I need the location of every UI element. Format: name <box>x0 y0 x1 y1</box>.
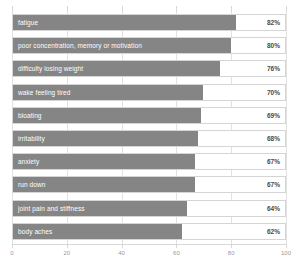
bar-row: anxiety67% <box>12 153 286 170</box>
x-axis-tick-label: 20 <box>63 250 70 256</box>
bar-row: difficulty losing weight76% <box>12 60 286 77</box>
horizontal-bar-chart: fatigue82%poor concentration, memory or … <box>0 0 296 266</box>
bar-value-label: 80% <box>267 38 280 53</box>
bar-category-label: body aches <box>18 224 52 239</box>
bar <box>13 154 195 169</box>
gridline <box>286 12 287 244</box>
bar-value-label: 82% <box>267 15 280 30</box>
bar-category-label: run down <box>18 177 46 192</box>
bar-category-label: irritability <box>18 131 45 146</box>
x-axis-tick <box>176 244 177 248</box>
x-axis-tick-label: 80 <box>228 250 235 256</box>
bar-category-label: difficulty losing weight <box>18 61 83 76</box>
x-axis-tick-label: 0 <box>10 250 13 256</box>
bar-category-label: wake feeling tired <box>18 85 70 100</box>
bar-rows: fatigue82%poor concentration, memory or … <box>12 12 286 244</box>
bar-category-label: joint pain and stiffness <box>18 201 85 216</box>
bar-value-label: 67% <box>267 177 280 192</box>
bar-value-label: 64% <box>267 201 280 216</box>
bar-row: bloating69% <box>12 107 286 124</box>
bar-row: body aches62% <box>12 223 286 240</box>
x-axis: 020406080100 <box>12 244 286 266</box>
bar-value-label: 76% <box>267 61 280 76</box>
bar-category-label: anxiety <box>18 154 39 169</box>
x-axis-tick-label: 60 <box>173 250 180 256</box>
bar-row: joint pain and stiffness64% <box>12 200 286 217</box>
bar-value-label: 70% <box>267 85 280 100</box>
plot-area: fatigue82%poor concentration, memory or … <box>12 12 286 244</box>
bar-row: wake feeling tired70% <box>12 84 286 101</box>
bar-value-label: 67% <box>267 154 280 169</box>
x-axis-line <box>12 244 286 245</box>
x-axis-tick-label: 40 <box>118 250 125 256</box>
bar-category-label: bloating <box>18 108 42 123</box>
bar-value-label: 62% <box>267 224 280 239</box>
bar <box>13 15 236 30</box>
bar-category-label: poor concentration, memory or motivation <box>18 38 142 53</box>
bar-row: irritability68% <box>12 130 286 147</box>
bar-row: run down67% <box>12 176 286 193</box>
x-axis-tick <box>12 244 13 248</box>
x-axis-tick-label: 100 <box>281 250 291 256</box>
bar-value-label: 69% <box>267 108 280 123</box>
bar-value-label: 68% <box>267 131 280 146</box>
bar-row: poor concentration, memory or motivation… <box>12 37 286 54</box>
bar-row: fatigue82% <box>12 14 286 31</box>
top-tick-mark <box>286 6 287 12</box>
bar-category-label: fatigue <box>18 15 38 30</box>
x-axis-tick <box>286 244 287 248</box>
x-axis-tick <box>67 244 68 248</box>
x-axis-tick <box>122 244 123 248</box>
x-axis-tick <box>231 244 232 248</box>
